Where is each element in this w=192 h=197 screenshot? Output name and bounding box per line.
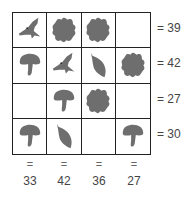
grid-cell [82,48,116,83]
mushroom-icon [16,51,44,79]
grid-cell [47,119,81,154]
col-sum-4: 27 [117,174,151,188]
flower-icon [50,16,78,44]
puzzle-grid [12,12,151,155]
col-equals-3: = [82,158,116,170]
grid-cell [13,84,47,119]
bird-icon [16,16,44,44]
row-sum-4: = 30 [157,127,181,141]
flower-icon [84,16,112,44]
grid-cell [13,13,47,48]
col-equals-1: = [13,158,47,170]
mushroom-icon [119,122,147,150]
grid-cell [116,13,150,48]
grid-cell [116,119,150,154]
col-sum-2: 42 [47,174,81,188]
grid-cell [47,84,81,119]
grid-cell [82,13,116,48]
grid-cell [47,48,81,83]
grid-cell [82,84,116,119]
mushroom-icon [16,122,44,150]
row-sum-2: = 42 [157,56,181,70]
flower-icon [119,51,147,79]
grid-cell [116,84,150,119]
col-sum-3: 36 [82,174,116,188]
col-equals-2: = [47,158,81,170]
grid-cell [13,119,47,154]
mushroom-icon [50,87,78,115]
grid-cell [82,119,116,154]
row-sum-1: = 39 [157,21,181,35]
row-sum-3: = 27 [157,92,181,106]
grid-cell [116,48,150,83]
bird-icon [50,51,78,79]
grid-cell [47,13,81,48]
leaf-icon [50,122,78,150]
grid-cell [13,48,47,83]
col-equals-4: = [117,158,151,170]
leaf-icon [84,51,112,79]
col-sum-1: 33 [13,174,47,188]
flower-icon [84,87,112,115]
